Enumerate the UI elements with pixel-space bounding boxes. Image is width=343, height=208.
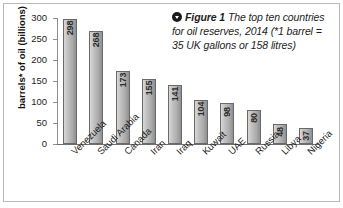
bar[interactable]: 298	[63, 19, 77, 144]
y-tick: 0	[53, 144, 57, 145]
bar[interactable]: 141	[168, 85, 182, 144]
y-tick: 50	[53, 123, 57, 124]
y-tick: 250	[53, 39, 57, 40]
y-tick-label: 100	[31, 96, 47, 107]
plot-area: 300250200150100500 298268173155141104988…	[57, 18, 319, 144]
bar-value-label: 141	[170, 87, 180, 101]
y-tick-label: 50	[36, 117, 47, 128]
y-tick: 100	[53, 102, 57, 103]
y-tick: 200	[53, 60, 57, 61]
bar-value-label: 298	[65, 21, 75, 35]
y-tick: 150	[53, 81, 57, 82]
bar-value-label: 80	[249, 114, 259, 124]
bar-value-label: 98	[222, 107, 232, 117]
y-tick-label: 250	[31, 33, 47, 44]
y-tick-label: 200	[31, 54, 47, 65]
y-tick-label: 150	[31, 75, 47, 86]
bar-value-label: 155	[144, 81, 154, 95]
y-axis-title: barrels* of oil (billions)	[16, 0, 27, 123]
y-axis-line	[57, 18, 58, 145]
y-tick-label: 0	[42, 138, 47, 149]
bar[interactable]: 104	[194, 100, 208, 144]
bar-value-label: 173	[118, 73, 128, 87]
bar[interactable]: 80	[247, 110, 261, 144]
bar-value-label: 104	[196, 102, 206, 116]
figure-container: Figure 1 The top ten countries for oil r…	[0, 0, 343, 208]
y-tick: 300	[53, 18, 57, 19]
y-tick-label: 300	[31, 12, 47, 23]
bar-value-label: 268	[91, 33, 101, 47]
